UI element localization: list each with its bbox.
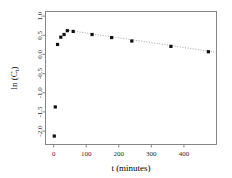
data-point — [53, 134, 56, 137]
data-point — [54, 105, 57, 108]
x-tick-label: 200 — [114, 150, 125, 158]
x-tick-label: 300 — [146, 150, 157, 158]
data-point — [207, 50, 210, 53]
y-tick-label: -2.0 — [36, 125, 44, 137]
x-axis-title: t (minutes) — [111, 163, 150, 173]
y-axis-title: ln (Ct) — [9, 66, 20, 89]
y-tick-label: 1.0 — [36, 11, 44, 20]
y-tick-label: -1.5 — [36, 106, 44, 118]
y-tick-label: 0.5 — [36, 30, 44, 39]
x-tick-label: 100 — [81, 150, 92, 158]
y-axis-title-text: ln (Ct) — [9, 66, 20, 89]
scatter-plot-canvas: 1.00.50.0-0.5-1.0-1.5-2.0 0100200300400 … — [0, 0, 232, 178]
y-axis-title-suffix: ) — [9, 66, 19, 69]
data-point — [72, 30, 75, 33]
data-point — [59, 36, 62, 39]
data-point — [62, 33, 65, 36]
y-axis-title-prefix: ln (C — [9, 71, 19, 89]
data-point — [169, 45, 172, 48]
data-point — [56, 43, 59, 46]
x-tick-label: 400 — [179, 150, 190, 158]
data-point — [90, 33, 93, 36]
x-tick-label: 0 — [52, 150, 56, 158]
data-point — [66, 29, 69, 32]
data-point — [110, 36, 113, 39]
chart-figure: 1.00.50.0-0.5-1.0-1.5-2.0 0100200300400 … — [0, 0, 232, 178]
y-tick-label: -1.0 — [36, 87, 44, 99]
y-tick-label: -0.5 — [36, 68, 44, 80]
data-point — [130, 39, 133, 42]
y-tick-label: 0.0 — [36, 50, 44, 59]
